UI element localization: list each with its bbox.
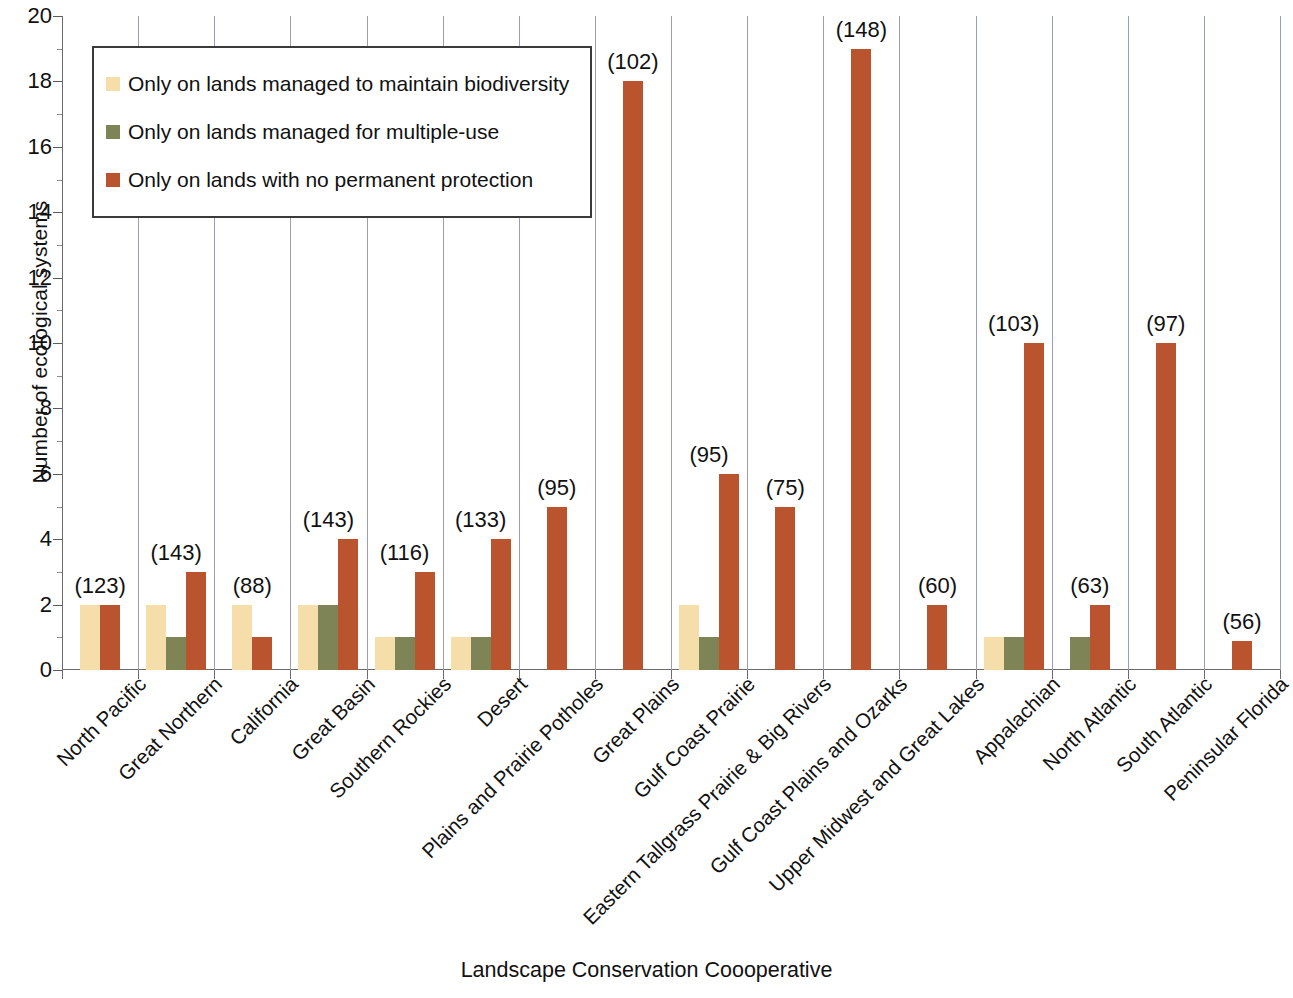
legend-label: Only on lands with no permanent protecti…: [128, 168, 533, 192]
y-tick-mark: [53, 670, 62, 671]
y-tick-label: 6: [8, 461, 52, 487]
legend-label: Only on lands managed for multiple-use: [128, 120, 499, 144]
bar[interactable]: [415, 572, 435, 670]
bar[interactable]: [1090, 605, 1110, 670]
y-tick-mark: [53, 147, 62, 148]
bar[interactable]: [471, 637, 491, 670]
bar-chart: Number of ecological systems 02468101214…: [0, 0, 1293, 998]
bar-value-label: (116): [380, 540, 430, 566]
y-tick-minor-mark: [57, 310, 62, 311]
bar-group-bars: [595, 16, 671, 670]
legend-item[interactable]: Only on lands with no permanent protecti…: [106, 156, 576, 204]
bar[interactable]: [318, 605, 338, 670]
bar-value-label: (60): [918, 573, 957, 599]
bar[interactable]: [775, 507, 795, 671]
bar-value-label: (88): [233, 573, 272, 599]
y-tick-minor-mark: [57, 180, 62, 181]
bar-group: (97): [1128, 16, 1204, 670]
y-tick-mark: [53, 605, 62, 606]
y-tick-minor-mark: [57, 507, 62, 508]
bar-value-label: (95): [537, 475, 576, 501]
y-tick-label: 10: [8, 330, 52, 356]
bar-value-label: (56): [1222, 609, 1261, 635]
bar-group: (63): [1052, 16, 1128, 670]
bar[interactable]: [232, 605, 252, 670]
bar-group: (60): [899, 16, 975, 670]
bar[interactable]: [395, 637, 415, 670]
bar-value-label: (143): [303, 507, 354, 533]
x-axis-title: Landscape Conservation Coooperative: [0, 958, 1293, 983]
bar[interactable]: [80, 605, 100, 670]
bar[interactable]: [984, 637, 1004, 670]
bar[interactable]: [451, 637, 471, 670]
bar[interactable]: [1070, 637, 1090, 670]
y-tick-minor-mark: [57, 441, 62, 442]
bar-group-bars: [1128, 16, 1204, 670]
legend-item[interactable]: Only on lands managed for multiple-use: [106, 108, 576, 156]
legend-item[interactable]: Only on lands managed to maintain biodiv…: [106, 60, 576, 108]
y-tick-mark: [53, 343, 62, 344]
bar[interactable]: [375, 637, 395, 670]
bar-group: (95): [671, 16, 747, 670]
y-tick-minor-mark: [57, 376, 62, 377]
bar[interactable]: [1004, 637, 1024, 670]
y-tick-minor-mark: [57, 572, 62, 573]
bar-group: (102): [595, 16, 671, 670]
y-tick-minor-mark: [57, 114, 62, 115]
gridline-vertical: [1280, 16, 1281, 670]
bar[interactable]: [1156, 343, 1176, 670]
y-axis-tick-labels: 02468101214161820: [0, 0, 52, 998]
bar[interactable]: [679, 605, 699, 670]
bar-value-label: (63): [1070, 573, 1109, 599]
y-tick-minor-mark: [57, 49, 62, 50]
y-tick-mark: [53, 81, 62, 82]
bar[interactable]: [252, 637, 272, 670]
bar-value-label: (133): [455, 507, 506, 533]
x-tick-label: Desert: [472, 672, 532, 732]
bar[interactable]: [851, 49, 871, 670]
bar[interactable]: [1024, 343, 1044, 670]
y-tick-label: 0: [8, 657, 52, 683]
y-tick-label: 2: [8, 592, 52, 618]
y-tick-label: 12: [8, 265, 52, 291]
bar[interactable]: [100, 605, 120, 670]
bar[interactable]: [1232, 641, 1252, 670]
bar[interactable]: [186, 572, 206, 670]
y-tick-mark: [53, 474, 62, 475]
y-tick-label: 16: [8, 134, 52, 160]
bar-value-label: (102): [607, 49, 658, 75]
bar-group: (75): [747, 16, 823, 670]
bar[interactable]: [298, 605, 318, 670]
bar[interactable]: [927, 605, 947, 670]
bar-value-label: (143): [151, 540, 202, 566]
y-tick-label: 4: [8, 526, 52, 552]
y-tick-mark: [53, 539, 62, 540]
legend: Only on lands managed to maintain biodiv…: [92, 46, 592, 218]
bar[interactable]: [623, 81, 643, 670]
y-tick-label: 20: [8, 3, 52, 29]
bar-value-label: (75): [766, 475, 805, 501]
legend-color-swatch: [106, 125, 120, 139]
x-tick-label: California: [225, 672, 303, 750]
bar-group: (103): [976, 16, 1052, 670]
bar-group-bars: [747, 16, 823, 670]
legend-color-swatch: [106, 173, 120, 187]
bar[interactable]: [547, 507, 567, 671]
bar[interactable]: [491, 539, 511, 670]
x-axis-tick-labels: North PacificGreat NorthernCaliforniaGre…: [62, 672, 1280, 972]
bar-value-label: (103): [988, 311, 1039, 337]
bar[interactable]: [146, 605, 166, 670]
bar-group-bars: [1204, 16, 1280, 670]
bar-group: (148): [823, 16, 899, 670]
bar-value-label: (123): [74, 573, 125, 599]
bar-group-bars: [671, 16, 747, 670]
bar[interactable]: [699, 637, 719, 670]
bar-value-label: (97): [1146, 311, 1185, 337]
bar[interactable]: [166, 637, 186, 670]
legend-color-swatch: [106, 77, 120, 91]
bar-value-label: (148): [836, 17, 887, 43]
bar[interactable]: [719, 474, 739, 670]
y-tick-minor-mark: [57, 637, 62, 638]
bar[interactable]: [338, 539, 358, 670]
y-tick-mark: [53, 408, 62, 409]
